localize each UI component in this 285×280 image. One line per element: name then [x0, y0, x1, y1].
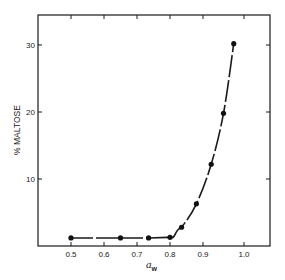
y-axis-label: % MALTOSE: [12, 105, 22, 155]
x-tick-label: 0.8: [164, 250, 176, 259]
data-point: [231, 41, 236, 46]
data-point: [194, 201, 199, 206]
data-point: [167, 235, 172, 240]
y-axis-ticks: [38, 45, 270, 179]
plot-frame: [38, 15, 270, 246]
x-tick-label: 0.9: [197, 250, 209, 259]
y-tick-label: 30: [26, 41, 35, 50]
data-point: [68, 235, 73, 240]
data-markers: [68, 41, 236, 241]
data-point: [209, 162, 214, 167]
data-point: [221, 111, 226, 116]
chart: 0.50.60.70.80.91.0 102030 % MALTOSE aw: [0, 0, 285, 280]
x-axis-tick-labels: 0.50.60.70.80.91.0: [65, 250, 250, 259]
y-tick-label: 20: [26, 108, 35, 117]
x-axis-label-subscript: w: [151, 265, 158, 272]
x-axis-ticks: [71, 15, 244, 246]
data-point: [179, 225, 184, 230]
x-tick-label: 0.5: [65, 250, 77, 259]
x-axis-label: aw: [146, 258, 158, 272]
data-curve: [71, 44, 234, 238]
y-tick-label: 10: [26, 175, 35, 184]
x-tick-label: 0.6: [98, 250, 110, 259]
x-tick-label: 0.7: [131, 250, 143, 259]
data-point: [146, 235, 151, 240]
y-axis-tick-labels: 102030: [26, 41, 35, 184]
x-tick-label: 1.0: [238, 250, 250, 259]
data-point: [118, 235, 123, 240]
